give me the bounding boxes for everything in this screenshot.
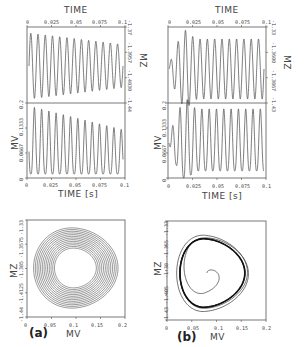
b-mv-tick: 0 <box>161 179 167 182</box>
b-phase-ytick: -1.355 <box>163 240 169 258</box>
b-top-tick: 0.025 <box>186 19 201 25</box>
b-mz-curve <box>169 30 264 105</box>
a-top-tick: 0.025 <box>44 19 59 25</box>
a-top-tick: 0 <box>26 19 29 25</box>
b-bottom-axis-title: TIME [s] <box>202 191 242 201</box>
b-top-tick: 0 <box>168 19 171 25</box>
b-mv-label: MV <box>153 135 163 150</box>
b-bottom-tick: 0.075 <box>235 183 250 189</box>
b-phase-ylabel: MZ <box>153 261 163 276</box>
a-mz-label: MZ <box>138 53 148 68</box>
a-bottom-axis-title: TIME [s] <box>58 189 98 199</box>
a-mz-tick: -1.3957 <box>127 42 133 63</box>
a-phase-loop <box>51 245 100 292</box>
a-top-tick: 0.075 <box>92 19 107 25</box>
panel-label-b: (b) <box>177 330 197 344</box>
a-mv-label: MV <box>10 135 20 150</box>
a-phase-ytick: -1.4125 <box>18 283 24 304</box>
a-mz-curve <box>29 33 123 98</box>
b-mv-curve <box>169 100 264 178</box>
a-bottom-tick: 0.05 <box>69 182 81 188</box>
b-bottom-tick: 0.1 <box>262 183 271 189</box>
a-top-tick: 0.1 <box>118 19 127 25</box>
a-mv-tick: 0.1333 <box>18 118 24 136</box>
a-phase-ytick: -1.44 <box>18 307 24 322</box>
b-phase-ytick: -1.43 <box>163 307 169 322</box>
a-phase-loop <box>42 236 109 299</box>
a-phase-xtick: 0.15 <box>91 322 103 328</box>
a-phase-ytick: -1.3575 <box>18 237 24 258</box>
b-bottom-tick: 0 <box>167 183 170 189</box>
a-bottom-tick: 0 <box>25 182 28 188</box>
b-bottom-tick: 0.05 <box>212 183 224 189</box>
b-phase-ytick: -1.38 <box>163 263 169 278</box>
a-phase-loop <box>44 238 107 298</box>
b-mz-tick: -1.33 <box>271 20 277 35</box>
b-top-tick: 0.075 <box>235 19 250 25</box>
b-phase-xtick: 0.15 <box>236 325 248 331</box>
a-phase-loop <box>48 241 104 294</box>
b-bottom-tick: 0.025 <box>186 183 201 189</box>
b-top-axis-title: TIME <box>215 5 239 15</box>
a-phase-loop <box>49 243 102 293</box>
a-phase-ytick: -1.33 <box>18 220 24 235</box>
b-phase-xtick: 0.1 <box>214 325 223 331</box>
b-phase-ytick: -1.33 <box>163 221 169 236</box>
b-top-tick: 0.05 <box>212 19 224 25</box>
b-mz-tick: -1.3867 <box>271 70 277 91</box>
a-phase-loop <box>54 248 96 288</box>
a-phase-loop <box>53 246 98 289</box>
b-phase-xlabel: MV <box>210 332 225 342</box>
b-mz-tick: -1.3600 <box>271 42 277 63</box>
b-mz-label: MZ <box>282 55 292 70</box>
a-phase-xtick: 0.2 <box>118 322 127 328</box>
a-mz-tick: -1.44 <box>127 97 133 112</box>
a-phase-xlabel: MV <box>66 329 81 339</box>
b-mv-tick: 0.2 <box>161 101 167 110</box>
a-mz-tick: -1.4030 <box>127 70 133 91</box>
a-phase-xtick: 0.1 <box>69 322 78 328</box>
b-phase-ytick: -1.405 <box>163 286 169 304</box>
a-phase-xtick: 0 <box>24 322 27 328</box>
a-bottom-tick: 0.1 <box>120 182 129 188</box>
figure-canvas <box>0 0 305 347</box>
b-top-tick: 0.1 <box>262 19 271 25</box>
panel-label-a: (a) <box>29 326 48 340</box>
a-top-tick: 0.05 <box>70 19 82 25</box>
b-mz-tick: -1.43 <box>271 97 277 112</box>
a-bottom-tick: 0.025 <box>43 182 58 188</box>
a-mv-tick: 0 <box>18 178 24 181</box>
a-phase-ylabel: MZ <box>9 263 19 278</box>
a-bottom-tick: 0.075 <box>92 182 107 188</box>
a-phase-loop <box>37 231 114 304</box>
a-top-axis-title: TIME <box>64 5 88 15</box>
a-mv-tick: 0.2 <box>18 100 24 109</box>
a-mv-curve <box>29 107 123 174</box>
a-mz-tick: -1.37 <box>127 20 133 35</box>
b-phase-xtick: 0 <box>165 325 168 331</box>
b-time-series-frame <box>168 27 266 178</box>
b-phase-xtick: 0.2 <box>262 325 271 331</box>
